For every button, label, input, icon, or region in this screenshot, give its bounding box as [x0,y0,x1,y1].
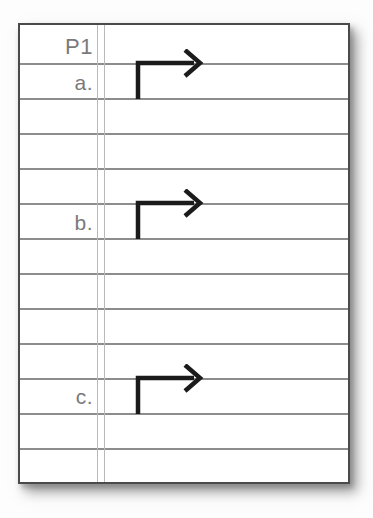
ruled-line [20,273,348,275]
elbow-arrow-right-icon [133,364,205,416]
ruled-line [20,448,348,450]
item-label-c: c. [46,384,93,410]
item-label-b: b. [46,210,93,236]
ruled-line [20,343,348,345]
margin-line [104,25,105,482]
ruled-line [20,308,348,310]
margin-line [97,25,98,482]
elbow-arrow-right-icon [133,189,205,241]
elbow-arrow-right-icon [133,49,205,101]
ruled-line [20,168,348,170]
scanned-page-canvas: P1 a. b. c. [0,0,373,518]
item-label-a: a. [46,70,93,96]
page-number-label: P1 [46,34,93,60]
notebook-page: P1 a. b. c. [18,23,350,484]
ruled-line [20,133,348,135]
